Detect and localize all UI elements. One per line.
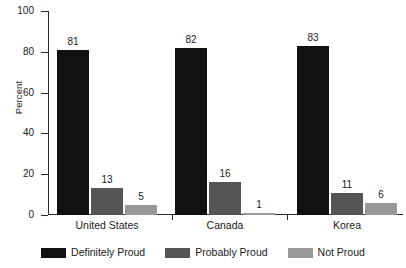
bar-chart: Percent 100806040200 811358216183116 Uni… [0,0,406,268]
y-axis-tick-label: 100 [0,6,34,16]
y-axis-tick [41,174,48,175]
legend-item[interactable]: Probably Proud [165,247,267,258]
bar-value-label: 5 [125,192,157,202]
legend-swatch-icon [41,248,66,258]
x-axis-group-label: Canada [170,219,280,231]
y-axis-tick [41,11,48,12]
y-axis-tick [41,215,48,216]
bar-value-label: 11 [331,180,363,190]
bar [297,46,329,215]
bar [243,213,275,215]
x-axis-group-label: United States [52,219,162,231]
legend-item[interactable]: Not Proud [288,247,365,258]
bar-value-label: 6 [365,190,397,200]
x-axis-group-label: Korea [292,219,402,231]
plot-area: 811358216183116 [48,11,403,215]
y-axis-tick-label: 0 [0,210,34,220]
bar [125,205,157,215]
bar-value-label: 16 [209,169,241,179]
y-axis-tick-label: 20 [0,169,34,179]
bar-value-label: 83 [297,33,329,43]
legend-label: Definitely Proud [71,247,145,258]
bar-value-label: 1 [243,200,275,210]
bar-value-label: 13 [91,175,123,185]
legend-label: Not Proud [318,247,365,258]
bar [331,193,363,215]
y-axis-tick [41,52,48,53]
legend-swatch-icon [288,248,313,258]
chart-legend: Definitely ProudProbably ProudNot Proud [0,247,406,258]
bar [175,48,207,215]
legend-item[interactable]: Definitely Proud [41,247,145,258]
bar [209,182,241,215]
bar-value-label: 82 [175,35,207,45]
y-axis-tick-label: 80 [0,47,34,57]
y-axis-tick [41,93,48,94]
legend-swatch-icon [165,248,190,258]
bar [57,50,89,215]
bar-value-label: 81 [57,37,89,47]
y-axis-tick-label: 40 [0,128,34,138]
y-axis-tick [41,133,48,134]
legend-label: Probably Proud [195,247,267,258]
bar [365,203,397,215]
bar [91,188,123,215]
y-axis-tick-label: 60 [0,88,34,98]
